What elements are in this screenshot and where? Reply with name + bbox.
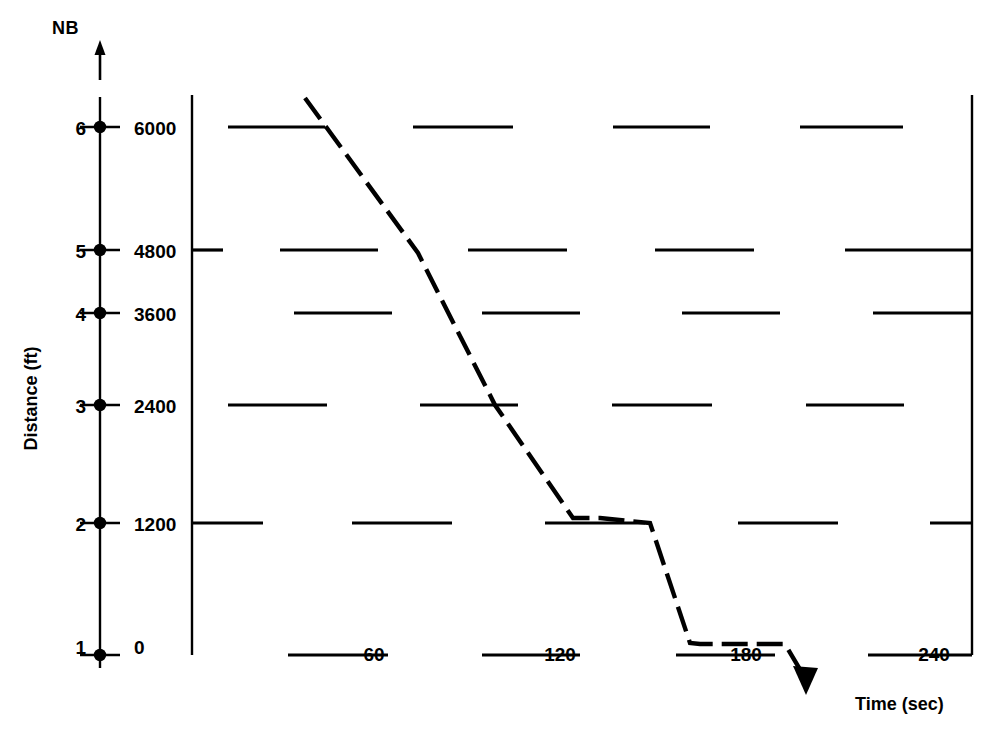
vehicle-trajectory [305, 98, 818, 695]
trajectory-arrowhead [793, 666, 818, 695]
time-space-diagram: NB Distance (ft) Time (sec) 6 5 4 3 2 1 … [0, 0, 987, 731]
plot-canvas [0, 0, 987, 731]
nb-arrow-icon [95, 40, 106, 80]
green-band-group [192, 127, 972, 655]
